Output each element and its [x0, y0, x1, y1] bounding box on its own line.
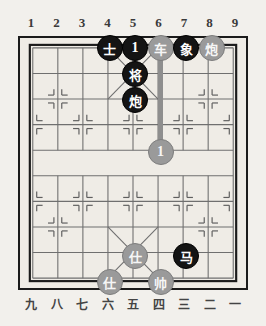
piece-general-black[interactable]: 将: [122, 61, 148, 87]
file-label-top-3: 3: [73, 14, 91, 32]
piece-elephant-black[interactable]: 象: [173, 35, 199, 61]
file-label-bottom-9: 一: [226, 296, 244, 314]
piece-marshal-gray[interactable]: 帅: [148, 269, 174, 295]
xiangqi-screenshot: 123456789 士1车象炮将炮1仕马仕帅 九八七六五四三二一: [0, 0, 266, 326]
file-label-top-6: 6: [150, 14, 168, 32]
file-labels-top: 123456789: [0, 14, 266, 32]
piece-cannon-black[interactable]: 炮: [122, 87, 148, 113]
file-label-top-7: 7: [175, 14, 193, 32]
file-label-bottom-3: 七: [73, 296, 91, 314]
file-label-top-1: 1: [22, 14, 40, 32]
file-label-bottom-4: 六: [99, 296, 117, 314]
file-label-bottom-1: 九: [22, 296, 40, 314]
piece-marker-one-gray[interactable]: 1: [148, 139, 174, 165]
file-label-bottom-8: 二: [201, 296, 219, 314]
file-labels-bottom: 九八七六五四三二一: [0, 296, 266, 314]
file-label-top-5: 5: [124, 14, 142, 32]
file-label-top-9: 9: [226, 14, 244, 32]
file-label-bottom-5: 五: [124, 296, 142, 314]
piece-chariot-gray[interactable]: 车: [148, 35, 174, 61]
piece-advisor-gray[interactable]: 仕: [122, 243, 148, 269]
piece-marker-one-black[interactable]: 1: [122, 35, 148, 61]
piece-advisor-gray[interactable]: 仕: [97, 269, 123, 295]
file-label-bottom-7: 三: [175, 296, 193, 314]
file-label-top-4: 4: [99, 14, 117, 32]
file-label-bottom-2: 八: [48, 296, 66, 314]
piece-advisor-black[interactable]: 士: [97, 35, 123, 61]
xiangqi-board[interactable]: 士1车象炮将炮1仕马仕帅: [18, 36, 248, 290]
piece-horse-black[interactable]: 马: [173, 243, 199, 269]
piece-cannon-gray[interactable]: 炮: [199, 35, 225, 61]
file-label-top-8: 8: [201, 14, 219, 32]
file-label-top-2: 2: [48, 14, 66, 32]
file-label-bottom-6: 四: [150, 296, 168, 314]
